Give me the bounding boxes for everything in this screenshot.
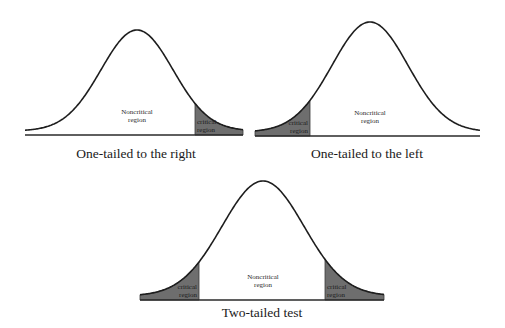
critical-label: critical bbox=[197, 118, 216, 126]
critical-label: critical bbox=[289, 119, 308, 127]
panel-one-tailed-left: criticalregionNoncriticalregion bbox=[255, 22, 480, 136]
critical-label: region bbox=[197, 126, 215, 134]
caption-two-tailed: Two-tailed test bbox=[222, 305, 302, 321]
caption-one-tailed-right: One-tailed to the right bbox=[76, 146, 196, 162]
critical-label: region bbox=[179, 291, 197, 299]
caption-one-tailed-left: One-tailed to the left bbox=[311, 146, 423, 162]
hypothesis-test-diagram: criticalregionNoncriticalregion critical… bbox=[0, 0, 505, 328]
noncritical-label: Noncritical bbox=[354, 109, 386, 117]
panel-one-tailed-right: criticalregionNoncriticalregion bbox=[25, 30, 243, 135]
critical-label: critical bbox=[327, 283, 346, 291]
critical-label: critical bbox=[178, 283, 197, 291]
noncritical-label: region bbox=[128, 116, 146, 124]
noncritical-label: Noncritical bbox=[121, 108, 153, 116]
critical-label: region bbox=[327, 291, 345, 299]
noncritical-label: region bbox=[254, 281, 272, 289]
panel-two-tailed: criticalregioncriticalregionNoncriticalr… bbox=[140, 181, 384, 300]
noncritical-label: region bbox=[361, 117, 379, 125]
noncritical-label: Noncritical bbox=[247, 273, 279, 281]
critical-label: region bbox=[290, 127, 308, 135]
